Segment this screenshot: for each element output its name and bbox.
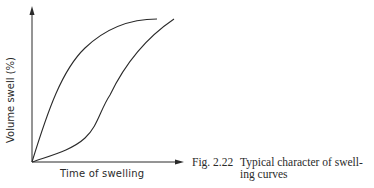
x-axis-arrow-icon — [175, 160, 184, 165]
caption-line-2: ing curves — [192, 168, 372, 180]
figure-number: Fig. 2.22 — [192, 156, 240, 168]
y-axis-arrow-icon — [30, 6, 35, 15]
caption-text-1: Typical character of swell- — [240, 156, 363, 168]
lower-swell-curve — [32, 19, 174, 162]
y-axis-label: Volume swell (%) — [5, 57, 16, 143]
x-axis-label: Time of swelling — [60, 168, 144, 179]
figure-caption: Fig. 2.22Typical character of swell- ing… — [192, 156, 372, 180]
swelling-curves-figure: Volume swell (%) Time of swelling Fig. 2… — [0, 0, 374, 188]
caption-line-1: Fig. 2.22Typical character of swell- — [192, 156, 372, 168]
upper-swell-curve — [32, 19, 157, 162]
